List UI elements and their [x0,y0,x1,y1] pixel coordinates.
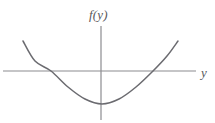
vertical-axis-label: f(y) [89,8,108,21]
horizontal-axis-label: y [201,66,207,79]
function-plot-figure: f(y) y [0,0,215,123]
